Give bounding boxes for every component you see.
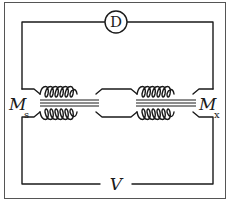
right-upper-coil	[137, 87, 174, 98]
left-core	[40, 100, 99, 106]
left-lower-coil	[40, 109, 77, 120]
right-core	[136, 100, 196, 106]
left-upper-coil	[40, 87, 77, 98]
left-inductor-subscript: s	[24, 109, 29, 120]
circuit-diagram: D V M s M x	[0, 0, 228, 203]
right-inductor-subscript: x	[214, 109, 220, 120]
source-label: V	[110, 174, 124, 194]
right-lower-coil	[137, 109, 174, 120]
detector-label: D	[110, 13, 122, 31]
